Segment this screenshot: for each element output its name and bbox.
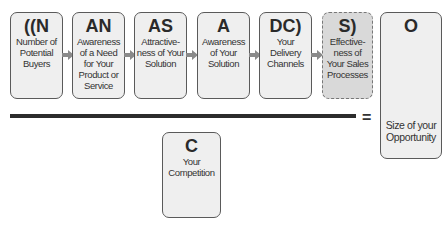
factor-box-number-of-buyers: ((N Number of Potential Buyers [10,12,63,99]
factor-box-sales-effectiveness: S) Effective-ness of Your Sales Processe… [322,12,373,99]
factor-symbol: S) [323,16,372,36]
factor-label: Your Delivery Channels [260,36,311,69]
result-symbol: O [381,16,441,36]
factor-symbol: AN [73,16,124,36]
factor-symbol: AS [135,16,186,36]
factor-label: Awareness of Your Solution [198,36,249,69]
denominator-box-competition: C Your Competition [162,132,221,218]
denominator-label: Your Competition [163,156,220,178]
result-box-opportunity: O Size of your Opportunity [380,12,442,159]
denominator-symbol: C [163,136,220,156]
factor-symbol: A [198,16,249,36]
factor-label: Effective-ness of Your Sales Processes [323,36,372,80]
factor-label: Awareness of a Need for Your Product or … [73,36,124,91]
result-label: Size of your Opportunity [381,119,441,143]
factor-symbol: DC) [260,16,311,36]
factor-box-awareness-of-solution: A Awareness of Your Solution [197,12,250,99]
factor-box-attractiveness: AS Attractive-ness of Your Solution [134,12,187,99]
equals-sign: = [362,109,371,127]
factor-label: Number of Potential Buyers [11,36,62,69]
factor-box-awareness-of-need: AN Awareness of a Need for Your Product … [72,12,125,99]
factor-symbol: ((N [11,16,62,36]
factor-box-delivery-channels: DC) Your Delivery Channels [259,12,312,99]
fraction-line [10,114,356,118]
factor-label: Attractive-ness of Your Solution [135,36,186,69]
